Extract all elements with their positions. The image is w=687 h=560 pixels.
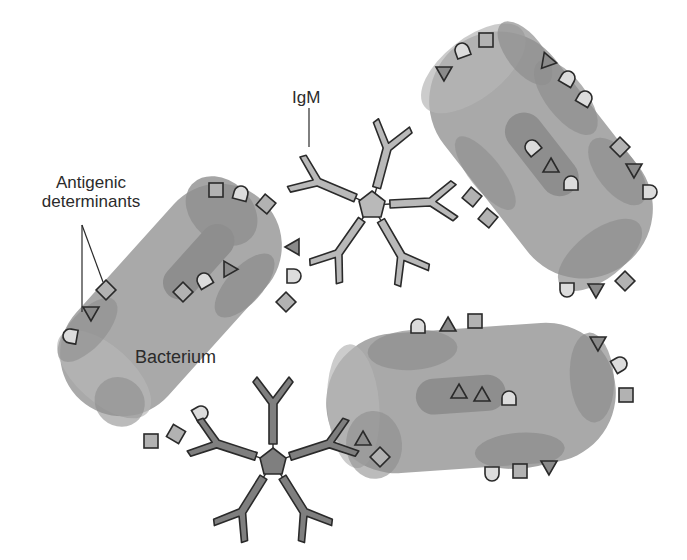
igm-label: IgM	[292, 88, 320, 107]
bacterium-bottom-right	[321, 316, 620, 482]
igm-top	[286, 118, 458, 289]
antigenic-label-line2: determinants	[36, 192, 146, 211]
bacterium-label: Bacterium	[135, 348, 216, 367]
igm-bottom-j-chain	[260, 448, 286, 474]
antigenic-determinants-label: Antigenic determinants	[36, 173, 146, 211]
igm-top-j-chain	[359, 191, 385, 217]
bacterium-top-right	[399, 0, 686, 308]
antigenic-label-line1: Antigenic	[36, 173, 146, 192]
igm-agglutination-diagram	[0, 0, 687, 560]
